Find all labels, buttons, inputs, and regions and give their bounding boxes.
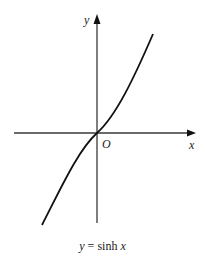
origin-label: O (102, 138, 111, 150)
y-axis-arrow-icon (94, 14, 101, 24)
caption-func: sinh (97, 239, 117, 253)
x-axis-arrow-icon (187, 130, 196, 137)
caption-equals: = (85, 239, 98, 253)
caption-arg: x (120, 239, 125, 253)
figure-caption: y = sinh x (0, 239, 205, 254)
x-axis-label: x (189, 139, 194, 151)
sinh-graph (0, 0, 205, 268)
y-axis-label: y (84, 14, 89, 26)
